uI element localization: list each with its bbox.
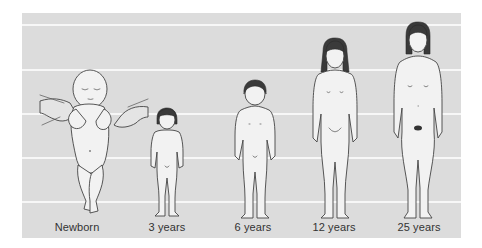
stage-label-newborn: Newborn xyxy=(37,221,117,233)
figure-25-years xyxy=(388,22,448,222)
figure-12-years xyxy=(307,38,363,222)
stage-label-12-years: 12 years xyxy=(294,221,374,233)
newborn-head xyxy=(73,70,107,108)
illustration-panel: Newborn 3 years 6 years 12 years 25 year… xyxy=(22,13,461,238)
figure-3-years xyxy=(145,108,189,220)
stage-label-3-years: 3 years xyxy=(127,221,207,233)
stage-label-25-years: 25 years xyxy=(379,221,459,233)
adult-hand-right xyxy=(114,106,148,127)
figure-newborn xyxy=(40,69,150,219)
stage-label-6-years: 6 years xyxy=(213,221,293,233)
figure-6-years xyxy=(229,80,281,222)
